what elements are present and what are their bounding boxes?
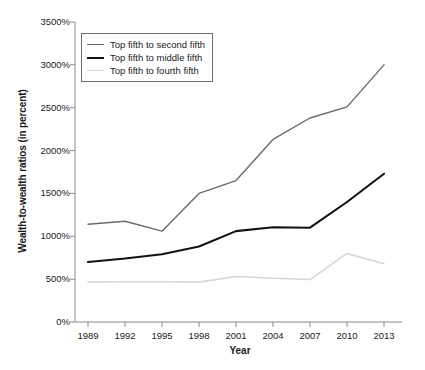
- line-chart: Wealth-to-wealth ratios (in percent) Yea…: [0, 0, 425, 370]
- series-line-1: [88, 174, 384, 262]
- legend-swatch-series-2: [87, 70, 104, 71]
- legend-label-series-1: Top fifth to middle fifth: [110, 51, 202, 64]
- chart-legend: Top fifth to second fifth Top fifth to m…: [81, 33, 213, 82]
- legend-label-series-2: Top fifth to fourth fifth: [110, 64, 199, 77]
- legend-item: Top fifth to second fifth: [87, 38, 205, 51]
- legend-label-series-0: Top fifth to second fifth: [110, 38, 205, 51]
- legend-item: Top fifth to middle fifth: [87, 51, 205, 64]
- legend-swatch-series-1: [87, 57, 104, 59]
- legend-swatch-series-0: [87, 44, 104, 45]
- legend-item: Top fifth to fourth fifth: [87, 64, 205, 77]
